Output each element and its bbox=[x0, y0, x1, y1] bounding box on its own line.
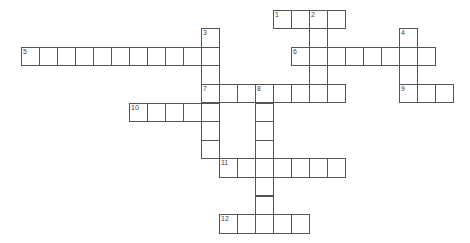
crossword-cell[interactable] bbox=[273, 84, 292, 104]
crossword-cell[interactable] bbox=[399, 47, 418, 67]
clue-number: 2 bbox=[311, 11, 315, 19]
crossword-cell[interactable] bbox=[327, 47, 346, 67]
crossword-cell[interactable] bbox=[201, 121, 220, 141]
clue-number: 8 bbox=[257, 85, 261, 93]
crossword-cell[interactable] bbox=[309, 158, 328, 178]
clue-number: 7 bbox=[203, 85, 207, 93]
crossword-cell[interactable] bbox=[255, 103, 274, 123]
crossword-cell[interactable] bbox=[165, 47, 184, 67]
crossword-cell[interactable] bbox=[255, 214, 274, 234]
crossword-cell[interactable] bbox=[129, 47, 148, 67]
crossword-cell[interactable] bbox=[165, 103, 184, 123]
crossword-cell[interactable]: 7 bbox=[201, 84, 220, 104]
crossword-cell[interactable] bbox=[399, 65, 418, 85]
crossword-cell[interactable]: 2 bbox=[309, 10, 328, 30]
clue-number: 4 bbox=[401, 29, 405, 37]
clue-number: 1 bbox=[275, 11, 279, 19]
crossword-cell[interactable] bbox=[39, 47, 58, 67]
crossword-cell[interactable] bbox=[201, 47, 220, 67]
crossword-cell[interactable] bbox=[291, 84, 310, 104]
crossword-cell[interactable] bbox=[201, 103, 220, 123]
crossword-cell[interactable]: 1 bbox=[273, 10, 292, 30]
crossword-cell[interactable] bbox=[255, 196, 274, 216]
crossword-cell[interactable]: 9 bbox=[399, 84, 418, 104]
clue-number: 5 bbox=[23, 48, 27, 56]
crossword-cell[interactable] bbox=[111, 47, 130, 67]
crossword-cell[interactable] bbox=[75, 47, 94, 67]
crossword-cell[interactable] bbox=[435, 84, 454, 104]
clue-number: 3 bbox=[203, 29, 207, 37]
crossword-cell[interactable] bbox=[291, 158, 310, 178]
crossword-cell[interactable] bbox=[309, 84, 328, 104]
crossword-cell[interactable] bbox=[219, 84, 238, 104]
clue-number: 12 bbox=[221, 215, 229, 223]
crossword-cell[interactable] bbox=[381, 47, 400, 67]
crossword-cell[interactable] bbox=[273, 214, 292, 234]
crossword-cell[interactable] bbox=[237, 84, 256, 104]
crossword-cell[interactable] bbox=[417, 47, 436, 67]
crossword-cell[interactable] bbox=[309, 47, 328, 67]
crossword-cell[interactable] bbox=[273, 158, 292, 178]
crossword-cell[interactable]: 4 bbox=[399, 28, 418, 48]
crossword-cell[interactable] bbox=[147, 103, 166, 123]
crossword-cell[interactable]: 11 bbox=[219, 158, 238, 178]
crossword-cell[interactable]: 12 bbox=[219, 214, 238, 234]
crossword-cell[interactable] bbox=[255, 121, 274, 141]
crossword-cell[interactable] bbox=[255, 140, 274, 160]
crossword-cell[interactable] bbox=[237, 158, 256, 178]
crossword-cell[interactable] bbox=[363, 47, 382, 67]
crossword-cell[interactable] bbox=[327, 158, 346, 178]
crossword-cell[interactable] bbox=[327, 84, 346, 104]
crossword-cell[interactable] bbox=[183, 103, 202, 123]
crossword-cell[interactable] bbox=[417, 84, 436, 104]
crossword-cell[interactable] bbox=[93, 47, 112, 67]
crossword-cell[interactable] bbox=[345, 47, 364, 67]
crossword-cell[interactable]: 6 bbox=[291, 47, 310, 67]
crossword-grid: 123749568101112 bbox=[0, 0, 470, 243]
crossword-cell[interactable] bbox=[201, 65, 220, 85]
clue-number: 9 bbox=[401, 85, 405, 93]
crossword-cell[interactable] bbox=[255, 177, 274, 197]
crossword-cell[interactable] bbox=[309, 65, 328, 85]
crossword-cell[interactable] bbox=[291, 214, 310, 234]
crossword-cell[interactable] bbox=[147, 47, 166, 67]
crossword-cell[interactable] bbox=[291, 10, 310, 30]
crossword-cell[interactable]: 8 bbox=[255, 84, 274, 104]
clue-number: 11 bbox=[221, 159, 228, 167]
crossword-cell[interactable] bbox=[201, 140, 220, 160]
crossword-cell[interactable]: 3 bbox=[201, 28, 220, 48]
crossword-cell[interactable]: 5 bbox=[21, 47, 40, 67]
crossword-cell[interactable] bbox=[255, 158, 274, 178]
crossword-cell[interactable] bbox=[237, 214, 256, 234]
crossword-cell[interactable]: 10 bbox=[129, 103, 148, 123]
clue-number: 6 bbox=[293, 48, 297, 56]
crossword-cell[interactable] bbox=[309, 28, 328, 48]
crossword-cell[interactable] bbox=[57, 47, 76, 67]
crossword-cell[interactable] bbox=[183, 47, 202, 67]
clue-number: 10 bbox=[131, 104, 139, 112]
crossword-cell[interactable] bbox=[327, 10, 346, 30]
